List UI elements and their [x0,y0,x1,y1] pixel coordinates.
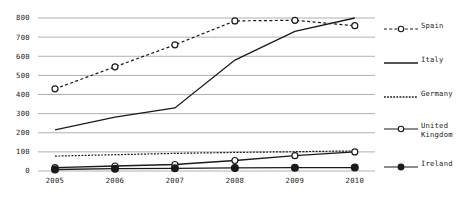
y-axis-tick-label: 100 [0,147,30,156]
series-line-united-kingdom [55,152,355,168]
data-point-spain [112,64,118,70]
legend-swatch-italy-solid [384,57,418,69]
series-line-ireland [55,168,355,170]
x-axis-tick-label: 2007 [155,176,195,185]
y-axis-tick-label: 700 [0,33,30,42]
y-axis-tick-label: 500 [0,71,30,80]
legend-swatch-germany-dotted [384,91,418,103]
y-axis-tick-label: 200 [0,128,30,137]
data-point-spain [232,18,238,24]
series-line-spain [55,20,355,89]
x-axis-tick-label: 2008 [215,176,255,185]
legend-item-united-kingdom[interactable]: United Kingdom [384,122,453,139]
data-point-spain [52,86,58,92]
x-axis-tick-label: 2005 [35,176,75,185]
data-point-ireland [112,165,119,172]
data-point-ireland [232,165,239,172]
legend-swatch-spain-dashed-open-circle [384,23,418,35]
legend-item-italy[interactable]: Italy [384,56,444,69]
legend-item-ireland[interactable]: Ireland [384,160,453,173]
chart-legend: Spain Italy Germany United Kingdom [384,0,466,200]
data-point-ireland [172,165,179,172]
data-point-ireland [351,164,358,171]
data-point-united-kingdom [232,158,238,164]
x-axis-tick-label: 2010 [335,176,375,185]
line-chart: Spain Italy Germany United Kingdom [0,0,466,200]
legend-swatch-ireland-solid-filled-circle [384,161,418,173]
legend-label-spain: Spain [421,22,444,31]
data-point-spain [172,42,178,48]
y-axis-tick-label: 0 [0,166,30,175]
x-axis-tick-label: 2009 [275,176,315,185]
data-point-spain [352,23,358,29]
data-point-spain [292,17,298,23]
legend-swatch-united-kingdom-solid-open-circle [384,123,418,135]
data-point-united-kingdom [292,153,298,159]
legend-label-ireland: Ireland [421,160,453,169]
y-axis-tick-label: 800 [0,13,30,22]
legend-label-italy: Italy [421,56,444,65]
data-point-ireland [292,164,299,171]
y-axis-tick-label: 300 [0,109,30,118]
x-axis-tick-label: 2006 [95,176,135,185]
legend-label-germany: Germany [421,90,453,99]
data-point-ireland [52,166,59,173]
y-axis-tick-label: 400 [0,90,30,99]
y-axis-tick-label: 600 [0,52,30,61]
legend-label-united-kingdom: United Kingdom [421,122,453,139]
series-line-italy [55,18,355,130]
data-point-united-kingdom [352,149,358,155]
legend-item-germany[interactable]: Germany [384,90,453,103]
legend-item-spain[interactable]: Spain [384,22,444,35]
